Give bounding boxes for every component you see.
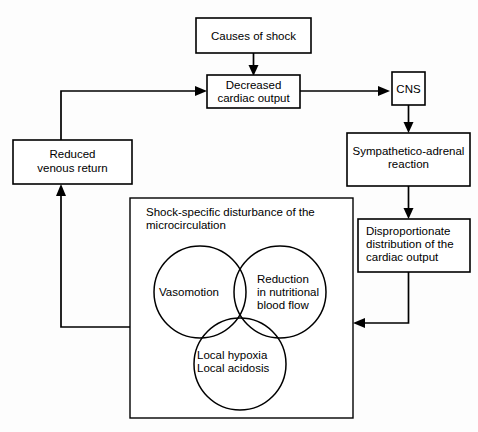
edge-line — [61, 195, 130, 327]
arrow-head-icon — [195, 86, 207, 96]
edge-microcirculation-to-reduced-venous-return — [56, 184, 130, 327]
arrow-head-icon — [378, 86, 390, 96]
node-decreased-cardiac-output-line-2: cardiac output — [217, 92, 290, 104]
microcirculation-panel[interactable]: Shock-specific disturbance of the microc… — [130, 198, 353, 418]
node-reduced-venous-return-line-2: venous return — [37, 162, 107, 174]
venn-label-reduction-line-1: Reduction — [257, 273, 309, 285]
venn-label-local-hypoxia-acidosis: Local hypoxia Local acidosis — [197, 349, 269, 374]
node-reduced-venous-return-line-1: Reduced — [49, 148, 95, 160]
node-decreased-cardiac-output[interactable]: Decreased cardiac output — [207, 75, 300, 108]
venn-label-local-line-1: Local hypoxia — [197, 349, 268, 361]
node-sympathetico-adrenal-reaction-line-2: reaction — [388, 158, 429, 170]
venn-label-vasomotion-line-1: Vasomotion — [159, 286, 219, 298]
node-sympathetico-adrenal-reaction-line-1: Sympathetico-adrenal — [353, 145, 465, 157]
edge-disproportionate-to-microcirculation — [353, 272, 409, 328]
node-reduced-venous-return[interactable]: Reduced venous return — [13, 140, 132, 184]
microcirculation-panel-title-line-1: Shock-specific disturbance of the — [146, 206, 315, 218]
venn-label-local-line-2: Local acidosis — [197, 362, 269, 374]
node-cns[interactable]: CNS — [392, 72, 425, 105]
edge-line — [364, 272, 409, 323]
edge-reduced-venous-return-to-decreased-output — [61, 86, 207, 140]
node-disproportionate-distribution-line-2: distribution of the — [366, 238, 454, 250]
node-decreased-cardiac-output-line-1: Decreased — [226, 79, 282, 91]
venn-label-reduction-line-3: blood flow — [257, 299, 309, 311]
venn-label-vasomotion: Vasomotion — [159, 286, 219, 298]
arrow-head-icon — [404, 122, 414, 133]
arrow-head-icon — [353, 318, 365, 328]
edge-cns-to-sympathetico — [404, 105, 414, 133]
node-causes-of-shock-label: Causes of shock — [211, 30, 296, 42]
arrow-head-icon — [56, 184, 66, 196]
arrow-head-icon — [404, 208, 414, 219]
microcirculation-panel-title-line-2: microcirculation — [146, 219, 226, 231]
flowchart-canvas: Shock-specific disturbance of the microc… — [0, 0, 478, 432]
venn-label-reduction-line-2: in nutritional — [257, 286, 319, 298]
edge-line — [61, 91, 198, 140]
node-sympathetico-adrenal-reaction[interactable]: Sympathetico-adrenal reaction — [347, 133, 470, 186]
edge-decreased-output-to-cns — [300, 86, 390, 96]
flowchart-diagram: Shock-specific disturbance of the microc… — [0, 0, 478, 432]
node-causes-of-shock[interactable]: Causes of shock — [196, 18, 311, 53]
microcirculation-panel-border — [130, 198, 353, 418]
edge-causes-to-decreased-output — [249, 53, 259, 76]
node-disproportionate-distribution-line-1: Disproportionate — [366, 225, 450, 237]
edge-sympathetico-to-disproportionate — [404, 186, 414, 219]
node-cns-label: CNS — [396, 83, 421, 95]
node-disproportionate-distribution[interactable]: Disproportionate distribution of the car… — [358, 219, 470, 272]
node-disproportionate-distribution-line-3: cardiac output — [366, 251, 439, 263]
